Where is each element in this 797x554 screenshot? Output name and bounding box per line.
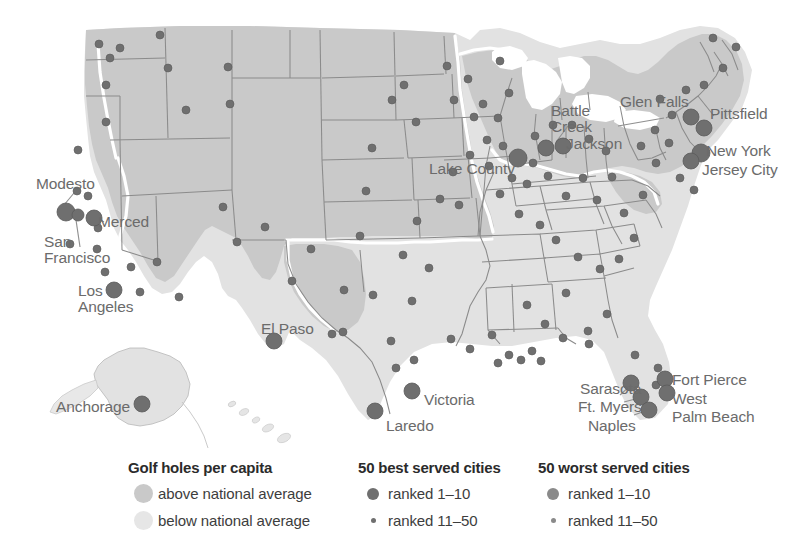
- city-marker-small[interactable]: [288, 277, 296, 285]
- city-marker-small[interactable]: [668, 111, 676, 119]
- city-marker-small[interactable]: [631, 351, 639, 359]
- city-marker-large-battle-creek[interactable]: [538, 140, 554, 156]
- legend-item-above-average[interactable]: above national average: [128, 480, 312, 507]
- legend-item-best-1-10[interactable]: ranked 1–10: [358, 480, 501, 507]
- city-marker-small[interactable]: [224, 63, 232, 71]
- city-marker-small[interactable]: [515, 210, 523, 218]
- city-marker-small[interactable]: [608, 173, 616, 181]
- city-marker-small[interactable]: [447, 335, 455, 343]
- city-marker-small[interactable]: [630, 234, 638, 242]
- city-marker-small[interactable]: [541, 320, 549, 328]
- city-marker-small[interactable]: [690, 186, 698, 194]
- city-marker-small[interactable]: [328, 330, 336, 338]
- city-marker-small[interactable]: [164, 64, 172, 72]
- city-marker-small[interactable]: [95, 40, 103, 48]
- city-marker-small[interactable]: [523, 301, 531, 309]
- city-marker-small[interactable]: [536, 221, 544, 229]
- city-marker-small[interactable]: [528, 347, 536, 355]
- city-marker-small[interactable]: [368, 144, 376, 152]
- city-marker-small[interactable]: [400, 81, 408, 89]
- city-marker-small[interactable]: [584, 327, 592, 335]
- city-marker-small[interactable]: [182, 106, 190, 114]
- city-marker-small[interactable]: [466, 345, 474, 353]
- city-marker-large-victoria[interactable]: [404, 383, 420, 399]
- city-marker-large-laredo[interactable]: [367, 403, 383, 419]
- city-marker-small[interactable]: [464, 75, 472, 83]
- city-marker-large-naples[interactable]: [641, 402, 657, 418]
- city-marker-small[interactable]: [340, 286, 348, 294]
- legend-item-worst-1-10[interactable]: ranked 1–10: [538, 480, 690, 507]
- city-marker-small[interactable]: [719, 64, 727, 72]
- city-marker-small[interactable]: [523, 180, 531, 188]
- city-marker-small[interactable]: [102, 81, 110, 89]
- city-marker-small[interactable]: [233, 238, 241, 246]
- city-marker-small[interactable]: [579, 174, 587, 182]
- city-marker-large-glen-falls[interactable]: [683, 109, 699, 125]
- city-marker-small[interactable]: [552, 236, 560, 244]
- city-marker-large-jersey-city[interactable]: [683, 153, 699, 169]
- city-marker-small[interactable]: [116, 44, 124, 52]
- city-marker-small[interactable]: [450, 96, 458, 104]
- city-marker-small[interactable]: [496, 57, 504, 65]
- city-marker-small[interactable]: [494, 359, 502, 367]
- city-marker-small[interactable]: [652, 159, 660, 167]
- city-marker-small[interactable]: [654, 364, 662, 372]
- city-marker-small[interactable]: [496, 190, 504, 198]
- city-marker-small[interactable]: [488, 331, 496, 339]
- city-marker-small[interactable]: [505, 89, 513, 97]
- city-marker-small[interactable]: [219, 203, 227, 211]
- city-marker-large-modesto[interactable]: [57, 203, 75, 221]
- city-marker-small[interactable]: [700, 81, 708, 89]
- city-marker-small[interactable]: [156, 31, 164, 39]
- city-marker-small[interactable]: [127, 263, 135, 271]
- city-marker-small[interactable]: [410, 356, 418, 364]
- city-marker-large-san-francisco[interactable]: [72, 209, 84, 221]
- city-marker-small[interactable]: [517, 356, 525, 364]
- city-marker-small[interactable]: [102, 118, 110, 126]
- city-marker-small[interactable]: [615, 255, 623, 263]
- city-marker-small[interactable]: [388, 96, 396, 104]
- city-marker-large-fort-pierce[interactable]: [657, 371, 673, 387]
- city-marker-small[interactable]: [499, 142, 507, 150]
- city-marker-small[interactable]: [399, 251, 407, 259]
- city-marker-small[interactable]: [466, 151, 474, 159]
- city-marker-small[interactable]: [596, 265, 604, 273]
- city-marker-small[interactable]: [665, 139, 673, 147]
- city-marker-small[interactable]: [676, 174, 684, 182]
- city-marker-small[interactable]: [387, 337, 395, 345]
- city-marker-small[interactable]: [562, 289, 570, 297]
- city-marker-small[interactable]: [585, 340, 593, 348]
- city-marker-small[interactable]: [620, 209, 628, 217]
- city-marker-small[interactable]: [637, 142, 645, 150]
- city-marker-large-pittsfield[interactable]: [696, 120, 712, 136]
- city-marker-small[interactable]: [136, 288, 144, 296]
- legend-item-worst-11-50[interactable]: ranked 11–50: [538, 507, 690, 534]
- city-marker-small[interactable]: [562, 192, 570, 200]
- city-marker-small[interactable]: [531, 132, 539, 140]
- city-marker-small[interactable]: [455, 201, 463, 209]
- city-marker-small[interactable]: [413, 217, 421, 225]
- city-marker-small[interactable]: [443, 62, 451, 70]
- legend-item-best-11-50[interactable]: ranked 11–50: [358, 507, 501, 534]
- city-marker-small[interactable]: [529, 159, 537, 167]
- city-marker-small[interactable]: [537, 357, 545, 365]
- city-marker-small[interactable]: [505, 351, 513, 359]
- city-marker-small[interactable]: [226, 100, 234, 108]
- city-marker-small[interactable]: [425, 264, 433, 272]
- city-marker-small[interactable]: [339, 328, 347, 336]
- city-marker-small[interactable]: [593, 196, 601, 204]
- city-marker-small[interactable]: [483, 136, 491, 144]
- city-marker-small[interactable]: [544, 172, 552, 180]
- city-marker-small[interactable]: [709, 34, 717, 42]
- city-marker-small[interactable]: [175, 293, 183, 301]
- city-marker-small[interactable]: [392, 364, 400, 372]
- city-marker-small[interactable]: [408, 297, 416, 305]
- city-marker-small[interactable]: [479, 100, 487, 108]
- city-marker-small[interactable]: [494, 114, 502, 122]
- city-marker-small[interactable]: [470, 113, 478, 121]
- city-marker-small[interactable]: [84, 192, 92, 200]
- city-marker-small[interactable]: [651, 126, 659, 134]
- city-marker-small[interactable]: [153, 258, 161, 266]
- city-marker-small[interactable]: [639, 191, 647, 199]
- city-marker-small[interactable]: [574, 253, 582, 261]
